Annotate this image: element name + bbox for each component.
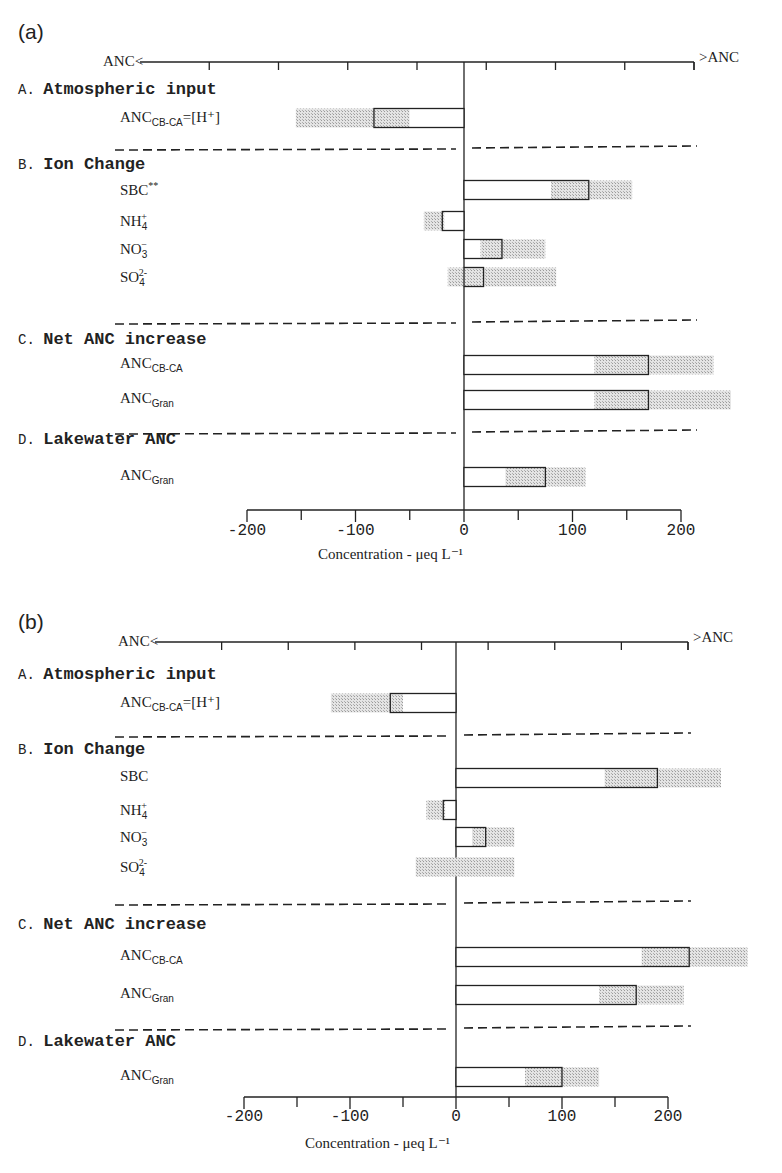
x-tick-label: -100 [336,522,374,540]
range-band [594,356,713,375]
row-label-subscript: Gran [152,993,174,1004]
section-divider [464,901,691,903]
value-bar-fill [403,694,456,713]
value-bar-fill [456,828,472,847]
section-title: D. Lakewater ANC [18,1032,176,1051]
section-name: Lakewater ANC [43,1032,176,1051]
x-tick-label: 100 [558,522,587,540]
range-band [472,828,514,847]
row-label: ANCGran [120,985,174,1004]
row-label-main: SBC [120,182,148,198]
range-band [599,986,684,1005]
row-label-subscript: CB-CA [152,363,183,374]
row-label-main: ANC [120,947,152,963]
top-axis-left-label: ANC< [118,633,158,650]
row-label-superscript: − [141,239,147,250]
range-band [416,858,515,877]
row-label-superscript: ** [148,180,158,191]
row-label-main: ANC [120,467,152,483]
row-label-subscript: 4 [139,277,145,288]
row-label-subscript: 4 [139,867,145,878]
value-bar-fill [464,391,594,410]
section-divider [115,736,448,737]
value-bar-fill [444,212,464,231]
x-tick-label: 200 [654,1108,683,1126]
range-band [594,391,731,410]
row-label-main: ANC [120,109,152,125]
row-label: ANCCB-CA=[H⁺] [120,108,220,128]
section-letter: D. [18,1034,43,1050]
range-band [642,948,748,967]
row-label-subscript: CB-CA [152,955,183,966]
row-label: ANCCB-CA=[H⁺] [120,693,220,713]
row-label: NO3− [120,827,147,848]
section-divider [115,1029,448,1030]
section-name: Net ANC increase [43,330,206,349]
row-label-suffix: =[H⁺] [183,694,220,710]
row-label-main: ANC [120,355,152,371]
row-label-superscript: + [141,800,147,811]
top-axis-right-label: >ANC [693,629,733,646]
x-axis-title: Concentration - μeq L⁻¹ [318,545,463,563]
chart-panel-b: (b)-200-1000100200ANC<>ANCConcentration … [0,585,782,1173]
row-label: ANCGran [120,390,174,409]
row-label-subscript: 3 [142,837,148,848]
row-label: NO3− [120,239,147,260]
chart-panel-a: (a)-200-1000100200ANC<>ANCConcentration … [0,0,782,590]
section-name: Atmospheric input [43,665,216,684]
range-band [604,769,721,788]
section-letter: A. [18,667,43,683]
section-divider [115,149,456,150]
section-title: C. Net ANC increase [18,330,206,349]
x-tick-label: -200 [228,522,266,540]
x-tick-label: 100 [548,1108,577,1126]
section-title: D. Lakewater ANC [18,430,176,449]
row-label: SO42- [120,857,147,878]
row-label-subscript: CB-CA [152,117,183,128]
value-bar-fill [464,240,480,259]
value-bar-fill [410,109,464,128]
row-label-main: ANC [120,694,152,710]
row-label-main: NH [120,802,142,818]
row-label-main: ANC [120,985,152,1001]
range-band [424,212,445,231]
section-divider [464,1026,691,1028]
x-tick-label: -200 [225,1108,263,1126]
x-tick-label: 0 [451,1108,461,1126]
range-band [551,181,632,200]
row-label-main: SO [120,269,139,285]
value-bar-fill [456,948,642,967]
section-letter: C. [18,332,43,348]
section-title: B. Ion Change [18,155,145,174]
row-label-main: NH [120,213,142,229]
row-label-subscript: Gran [152,475,174,486]
section-title: A. Atmospheric input [18,665,217,684]
x-tick-label: 0 [459,522,469,540]
x-tick-label: 200 [667,522,696,540]
row-label-superscript: + [141,211,147,222]
row-label-subscript: 3 [142,249,148,260]
value-bar-fill [456,986,599,1005]
range-band [480,240,545,259]
section-name: Lakewater ANC [43,430,176,449]
value-bar-fill [464,468,505,487]
row-label-subscript: CB-CA [152,702,183,713]
section-divider [472,320,697,322]
value-bar-fill [464,181,551,200]
section-divider [472,430,697,432]
value-bar-fill [456,1068,525,1087]
value-bar-fill [445,801,456,820]
x-tick-label: -100 [331,1108,369,1126]
section-divider [472,146,697,148]
value-bar-fill [464,356,594,375]
row-label-subscript: 4 [142,221,148,232]
section-letter: D. [18,432,43,448]
row-label-subscript: 4 [142,810,148,821]
section-divider [115,904,448,905]
section-name: Atmospheric input [43,80,216,99]
row-label-main: NO [120,241,142,257]
section-divider [464,733,691,735]
row-label: SO42- [120,267,147,288]
section-letter: C. [18,917,43,933]
value-bar-fill [456,769,604,788]
